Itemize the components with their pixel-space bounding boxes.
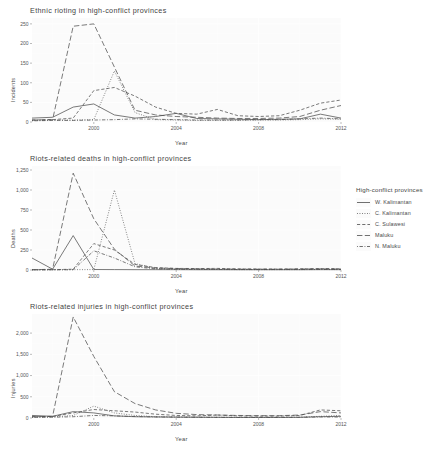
plot-area-deaths: 02505007501,0001,2502000200420082012 bbox=[0, 150, 350, 300]
svg-text:1,000: 1,000 bbox=[16, 187, 29, 193]
legend-item[interactable]: C. Kalimantan bbox=[356, 208, 438, 218]
svg-text:2012: 2012 bbox=[335, 273, 346, 279]
legend-item-list: W. KalimantanC. KalimantanC. SulawesiMal… bbox=[356, 197, 438, 251]
svg-text:1,250: 1,250 bbox=[16, 167, 29, 173]
legend-title: High-conflict provinces bbox=[356, 186, 438, 193]
svg-text:0: 0 bbox=[26, 267, 29, 273]
plot-area-incidents: 0501001502002502000200420082012 bbox=[0, 2, 350, 152]
legend-item-label: C. Sulawesi bbox=[375, 221, 405, 227]
svg-text:2,000: 2,000 bbox=[16, 330, 29, 336]
legend-key-line-icon bbox=[356, 220, 371, 229]
svg-text:2012: 2012 bbox=[335, 125, 346, 131]
chart-panel-incidents: Ethnic rioting in high-conflict province… bbox=[0, 2, 350, 150]
svg-text:2008: 2008 bbox=[253, 421, 264, 427]
svg-text:0: 0 bbox=[26, 119, 29, 125]
svg-text:500: 500 bbox=[20, 394, 29, 400]
legend-key-line-icon bbox=[356, 231, 371, 240]
legend-item-label: C. Kalimantan bbox=[375, 210, 411, 216]
legend-item[interactable]: Maluku bbox=[356, 230, 438, 240]
svg-text:500: 500 bbox=[20, 227, 29, 233]
legend-key-line-icon bbox=[356, 198, 371, 207]
svg-text:200: 200 bbox=[20, 40, 29, 46]
legend-item[interactable]: C. Sulawesi bbox=[356, 219, 438, 229]
svg-text:2000: 2000 bbox=[88, 273, 99, 279]
svg-text:1,500: 1,500 bbox=[16, 351, 29, 357]
figure-container: Ethnic rioting in high-conflict province… bbox=[0, 0, 439, 450]
svg-text:2000: 2000 bbox=[88, 125, 99, 131]
svg-text:50: 50 bbox=[23, 99, 29, 105]
svg-text:2008: 2008 bbox=[253, 273, 264, 279]
svg-text:2008: 2008 bbox=[253, 125, 264, 131]
svg-text:2004: 2004 bbox=[171, 273, 182, 279]
legend-item-label: N. Maluku bbox=[375, 243, 401, 249]
chart-panel-deaths: Riots-related deaths in high-conflict pr… bbox=[0, 150, 350, 298]
svg-text:150: 150 bbox=[20, 60, 29, 66]
legend-key-line-icon bbox=[356, 209, 371, 218]
svg-text:1,000: 1,000 bbox=[16, 372, 29, 378]
legend-item-label: W. Kalimantan bbox=[375, 199, 412, 205]
plot-area-injuries: 05001,0001,5002,0002000200420082012 bbox=[0, 298, 350, 448]
svg-text:2004: 2004 bbox=[171, 421, 182, 427]
legend-item[interactable]: N. Maluku bbox=[356, 241, 438, 251]
svg-text:2000: 2000 bbox=[88, 421, 99, 427]
svg-text:2004: 2004 bbox=[171, 125, 182, 131]
svg-text:250: 250 bbox=[20, 247, 29, 253]
svg-text:0: 0 bbox=[26, 415, 29, 421]
legend-key-line-icon bbox=[356, 242, 371, 251]
svg-text:250: 250 bbox=[20, 21, 29, 27]
chart-panel-injuries: Riots-related injuries in high-conflict … bbox=[0, 298, 350, 448]
legend-item-label: Maluku bbox=[375, 232, 393, 238]
legend: High-conflict provinces W. KalimantanC. … bbox=[356, 186, 438, 252]
legend-item[interactable]: W. Kalimantan bbox=[356, 197, 438, 207]
svg-text:750: 750 bbox=[20, 207, 29, 213]
svg-text:2012: 2012 bbox=[335, 421, 346, 427]
svg-text:100: 100 bbox=[20, 80, 29, 86]
